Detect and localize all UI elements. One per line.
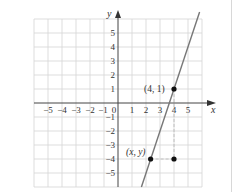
point-4-neg4 [171,156,176,161]
svg-text:1: 1 [111,84,116,94]
svg-text:2: 2 [144,105,149,115]
point-4-1 [171,86,176,91]
coordinate-plane-figure: x y −5 −4 −3 −2 −1 0 1 2 3 4 5 5 4 3 2 1… [0,0,235,192]
point-x-y [148,156,153,161]
x-axis-label: x [210,104,216,115]
svg-text:−1: −1 [105,112,115,122]
svg-text:−5: −5 [105,168,115,178]
svg-text:−3: −3 [105,140,115,150]
svg-text:−2: −2 [85,105,95,115]
graph-canvas: x y −5 −4 −3 −2 −1 0 1 2 3 4 5 5 4 3 2 1… [0,0,235,192]
svg-text:−2: −2 [105,126,115,136]
svg-text:−5: −5 [43,105,53,115]
svg-text:4: 4 [111,42,116,52]
svg-text:5: 5 [111,28,116,38]
svg-text:2: 2 [111,70,116,80]
svg-text:−3: −3 [71,105,81,115]
point-4-1-label: (4, 1) [144,84,165,95]
axes [34,16,210,187]
svg-text:5: 5 [186,105,191,115]
svg-text:3: 3 [111,56,116,66]
svg-text:3: 3 [158,105,163,115]
y-axis-label: y [106,8,112,19]
right-edge-divider [231,0,232,192]
svg-text:1: 1 [130,105,135,115]
point-x-y-label: (x, y) [126,147,146,158]
svg-text:−4: −4 [105,154,115,164]
y-axis-arrow-icon [115,10,121,18]
svg-text:−4: −4 [57,105,67,115]
